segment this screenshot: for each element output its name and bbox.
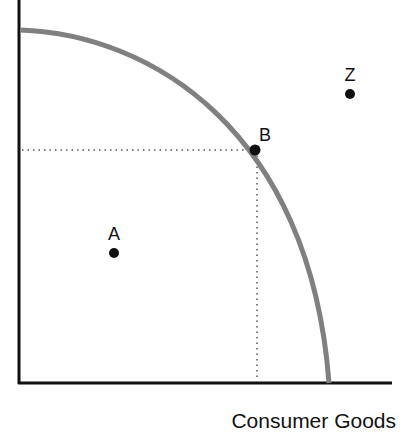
point-b [250, 145, 261, 156]
point-z [345, 89, 355, 99]
point-b-label: B [259, 125, 271, 145]
point-z-label: Z [345, 65, 356, 85]
point-a-label: A [108, 224, 120, 244]
ppf-curve [20, 30, 329, 383]
ppf-chart: A B Z Consumer Goods [0, 0, 403, 432]
x-axis-label: Consumer Goods [231, 409, 396, 432]
point-a [109, 248, 119, 258]
